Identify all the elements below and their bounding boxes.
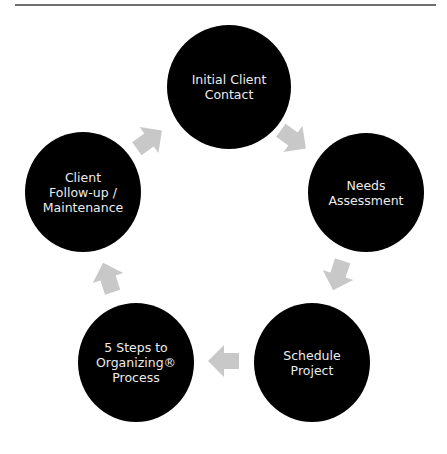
arrow-right-icon <box>125 116 172 163</box>
node-schedule-project: Schedule Project <box>254 303 370 422</box>
node-label: Needs Assessment <box>329 178 404 208</box>
top-divider-line <box>15 4 436 6</box>
arrow-right-icon <box>317 254 360 297</box>
node-label: 5 Steps to Organizing® Process <box>96 340 176 385</box>
arrow-right-icon <box>207 344 241 378</box>
arrow-right-icon <box>87 257 130 300</box>
node-initial-client-contact: Initial Client Contact <box>167 25 291 149</box>
node-label: Schedule Project <box>283 348 340 378</box>
node-label: Initial Client Contact <box>192 72 267 102</box>
node-needs-assessment: Needs Assessment <box>308 133 424 252</box>
node-client-follow-up: Client Follow-up / Maintenance <box>25 132 141 252</box>
node-5-steps-to-organizing: 5 Steps to Organizing® Process <box>78 303 194 422</box>
node-label: Client Follow-up / Maintenance <box>43 170 124 215</box>
